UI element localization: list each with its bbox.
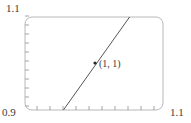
y-axis-min-label: 0.9	[2, 106, 16, 118]
data-point-marker	[93, 61, 96, 64]
x-axis-max-label: 1.1	[170, 106, 184, 118]
data-point-label: (1, 1)	[99, 58, 121, 69]
plot-screenshot: 1.1 0.9 1.1 (1, 1)	[0, 0, 191, 123]
plot-canvas	[0, 0, 191, 123]
y-axis-max-label: 1.1	[6, 2, 20, 14]
